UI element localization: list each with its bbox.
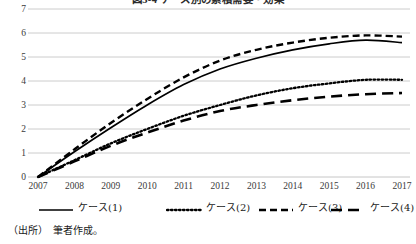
y-tick-label: 1 <box>0 148 26 158</box>
legend-label: ケース(1) <box>78 202 122 214</box>
y-tick-label: 2 <box>0 124 26 134</box>
plot-area <box>30 9 410 177</box>
legend-swatch-long-dashed-icon <box>330 202 366 214</box>
x-tick-label: 2007 <box>21 180 55 192</box>
y-tick-label: 4 <box>0 76 26 86</box>
source-note: （出所） 筆者作成。 <box>8 224 103 237</box>
chart-plot <box>30 9 410 177</box>
legend-label: ケース(4) <box>370 202 414 214</box>
x-axis: 2007200820092010201120122013201420152016… <box>30 180 410 194</box>
chart-legend: ケース(1)ケース(2)ケース(3)ケース(4) <box>0 199 416 219</box>
legend-label: ケース(2) <box>206 202 250 214</box>
legend-entry-1[interactable]: ケース(1) <box>38 199 122 217</box>
series-line-2 <box>38 80 402 177</box>
x-tick-label: 2009 <box>94 180 128 192</box>
x-tick-label: 2012 <box>203 180 237 192</box>
x-tick-label: 2011 <box>167 180 201 192</box>
x-tick-label: 2017 <box>385 180 416 192</box>
x-tick-label: 2013 <box>239 180 273 192</box>
y-tick-label: 6 <box>0 28 26 38</box>
y-axis: 01234567 <box>0 9 26 177</box>
y-tick-label: 5 <box>0 52 26 62</box>
legend-entry-2[interactable]: ケース(2) <box>166 199 250 217</box>
x-tick-label: 2008 <box>57 180 91 192</box>
y-tick-label: 7 <box>0 4 26 14</box>
legend-swatch-solid-icon <box>38 202 74 214</box>
legend-swatch-dotted-icon <box>166 202 202 214</box>
x-tick-label: 2014 <box>276 180 310 192</box>
series-line-1 <box>38 40 402 177</box>
y-tick-label: 3 <box>0 100 26 110</box>
x-tick-label: 2015 <box>312 180 346 192</box>
chart-title: 図3-4 ケース別の累積需要・効果 <box>0 0 416 6</box>
x-tick-label: 2016 <box>349 180 383 192</box>
figure-container: 図3-4 ケース別の累積需要・効果 01234567 2007200820092… <box>0 0 416 244</box>
legend-swatch-dashed-icon <box>258 202 294 214</box>
legend-entry-4[interactable]: ケース(4) <box>330 199 414 217</box>
x-tick-label: 2010 <box>130 180 164 192</box>
